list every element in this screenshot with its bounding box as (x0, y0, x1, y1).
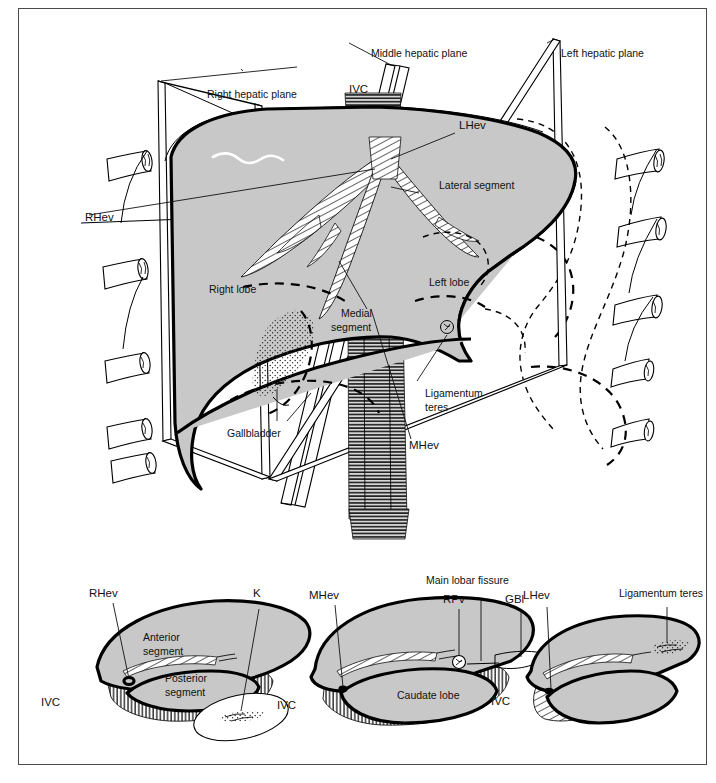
label-medial-segment-line2: segment (331, 321, 371, 333)
label-posterior-segment-line2: segment (165, 686, 205, 698)
label-left-hepatic-plane: Left hepatic plane (561, 47, 644, 59)
label-ivc-panel2: IVC (277, 699, 296, 711)
label-ligamentum-teres-line1: Ligamentum (425, 387, 483, 399)
label-main-lobar-fissure: Main lobar fissure (426, 574, 509, 586)
label-lhev-panel3: LHev (523, 589, 550, 601)
label-ivc-panel3: IVC (491, 695, 510, 707)
label-caudate-lobe: Caudate lobe (397, 689, 460, 701)
label-middle-hepatic-plane: Middle hepatic plane (371, 47, 467, 59)
right-side-ribs (103, 150, 157, 483)
label-rpv: RPv (443, 593, 465, 605)
label-medial-segment-line1: Medial (341, 307, 372, 319)
label-anterior-segment-line1: Anterior (143, 631, 180, 643)
left-side-ribs (611, 149, 667, 447)
panel-right-lobe: RHev K Anterior segment Posterior segmen… (41, 587, 310, 748)
figure-page: Right hepatic plane Middle hepatic plane… (0, 0, 716, 783)
label-posterior-segment-line1: Posterior (165, 672, 208, 684)
panel-left-lobe: LHev Ligamentum teres IVC (491, 587, 703, 723)
label-right-hepatic-plane: Right hepatic plane (207, 88, 297, 100)
label-lateral-segment: Lateral segment (439, 179, 514, 191)
label-lhev-main: LHev (459, 119, 486, 131)
label-anterior-segment-line2: segment (143, 645, 183, 657)
main-panel: Right hepatic plane Middle hepatic plane… (81, 39, 667, 539)
label-mhev-main: MHev (409, 439, 439, 451)
label-ivc-panel1: IVC (41, 696, 60, 708)
label-ligamentum-teres-line2: teres (425, 401, 448, 413)
label-gallbladder: Gallbladder (227, 427, 281, 439)
label-ivc-main: IVC (349, 83, 368, 95)
label-ligamentum-teres-panel3: Ligamentum teres (619, 587, 703, 599)
figure-frame: Right hepatic plane Middle hepatic plane… (18, 8, 707, 765)
label-mhev-panel2: MHev (309, 589, 339, 601)
liver-anatomy-illustration: Right hepatic plane Middle hepatic plane… (19, 9, 706, 764)
label-right-lobe: Right lobe (209, 283, 256, 295)
label-rhev-main: RHev (85, 211, 114, 223)
label-gbl: GBl (505, 593, 524, 605)
label-left-lobe: Left lobe (429, 276, 469, 288)
label-rhev-panel1: RHev (89, 587, 118, 599)
label-k-panel1: K (253, 587, 261, 599)
